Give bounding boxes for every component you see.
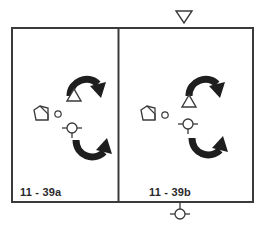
crosshair-circle-icon (178, 119, 198, 134)
crosshair-circle-icon (62, 123, 82, 138)
curved-arrow-clockwise-icon (189, 79, 225, 98)
triangle-down-icon (176, 11, 192, 23)
panel-a-label: 11 - 39a (20, 186, 61, 198)
panel-b (141, 79, 228, 155)
triangle-up-icon (182, 95, 196, 107)
camera-icon (141, 106, 155, 120)
camera-icon (34, 106, 48, 120)
curved-arrow-counterclockwise-icon (76, 138, 112, 157)
panel-a (34, 79, 112, 157)
crosshair-circle-icon (170, 203, 190, 219)
small-circle-icon (55, 111, 61, 117)
panel-b-label: 11 - 39b (149, 186, 191, 198)
small-circle-icon (162, 112, 168, 118)
curved-arrow-counterclockwise-icon (192, 136, 228, 155)
